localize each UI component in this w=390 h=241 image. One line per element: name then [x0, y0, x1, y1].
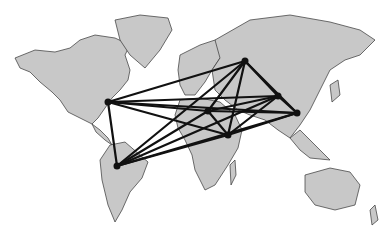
- node-china: [294, 110, 301, 117]
- madagascar: [230, 160, 236, 185]
- node-south-america: [114, 163, 121, 170]
- south-america: [100, 142, 148, 222]
- continents: [15, 15, 378, 225]
- japan: [330, 80, 340, 102]
- north-america: [15, 35, 130, 124]
- australia: [305, 168, 360, 210]
- world-map: [0, 0, 390, 241]
- new-zealand: [370, 205, 378, 225]
- node-north-america: [105, 99, 112, 106]
- node-central-asia: [275, 93, 282, 100]
- central-america: [92, 124, 112, 145]
- node-east-africa: [225, 132, 232, 139]
- southeast-asia: [290, 130, 330, 160]
- map-canvas: [0, 0, 390, 241]
- node-russia: [242, 58, 249, 65]
- node-north-africa: [205, 108, 212, 115]
